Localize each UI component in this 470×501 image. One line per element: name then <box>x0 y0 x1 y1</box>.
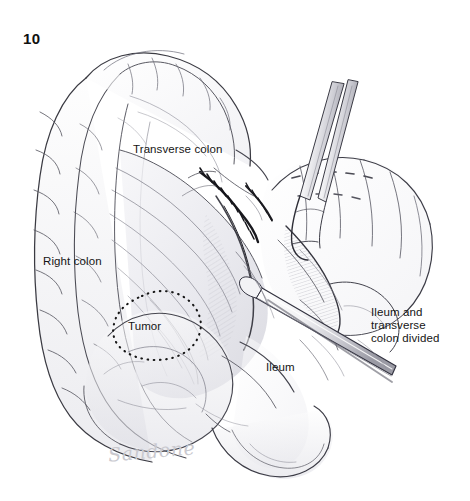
label-right-colon: Right colon <box>43 255 102 268</box>
label-ileum-and-transverse-colon-divided: Ileum and transverse colon divided <box>371 306 439 345</box>
label-ileum: Ileum <box>266 361 295 374</box>
surgical-illustration-figure: 10 Transverse colon Right colon Tumor Il… <box>0 0 470 501</box>
illustration-artwork <box>0 0 470 501</box>
label-transverse-colon: Transverse colon <box>133 143 222 156</box>
label-tumor: Tumor <box>128 320 161 333</box>
figure-number: 10 <box>23 30 40 47</box>
